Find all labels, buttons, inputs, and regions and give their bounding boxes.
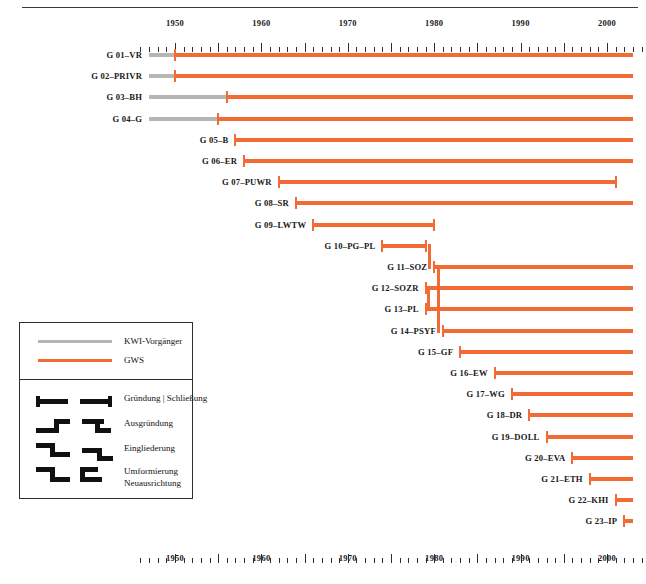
- axis-tick-1993: [547, 558, 548, 563]
- timeline-row: G 08–SR: [0, 195, 646, 211]
- row-label: G 13–PL: [384, 301, 418, 317]
- axis-label-2000: 2000: [598, 553, 616, 563]
- gruendung-cap: [511, 388, 513, 400]
- gruendung-cap: [243, 155, 245, 167]
- axis-label-1960: 1960: [252, 553, 270, 563]
- gruendung-cap: [174, 70, 176, 82]
- gws-segment: [443, 329, 633, 333]
- gws-segment: [512, 392, 633, 396]
- gruendung-cap: [589, 473, 591, 485]
- gws-segment: [244, 159, 633, 163]
- axis-tick-1965: [305, 554, 306, 563]
- timeline-row: G 12–SOZR: [0, 280, 646, 296]
- row-label: G 08–SR: [255, 195, 289, 211]
- gruendung-cap: [442, 325, 444, 337]
- legend-item-kwi: KWI-Vorgänger: [20, 332, 192, 351]
- axis-tick-1958: [244, 558, 245, 563]
- axis-tick-1996: [572, 558, 573, 563]
- timeline-row: G 10–PG–PL: [0, 238, 646, 254]
- row-label: G 16–EW: [450, 365, 487, 381]
- timeline-row: G 23–IP: [0, 513, 646, 529]
- row-label: G 21–ETH: [541, 471, 582, 487]
- gruendung-cap: [571, 452, 573, 464]
- axis-tick-1956: [227, 558, 228, 563]
- row-label: G 18–DR: [487, 407, 523, 423]
- gws-segment: [624, 519, 633, 523]
- axis-label-1990: 1990: [511, 553, 529, 563]
- legend-symbols: Gründung | Schließung Ausgründung: [20, 379, 192, 498]
- gws-segment: [426, 307, 633, 311]
- gruendung-cap: [494, 367, 496, 379]
- axis-tick-1955: [218, 554, 219, 563]
- gws-segment: [313, 223, 434, 227]
- axis-tick-1992: [538, 558, 539, 563]
- row-label: G 17–WG: [467, 386, 505, 402]
- gws-segment: [382, 244, 425, 248]
- timeline-row: G 04–G: [0, 111, 646, 127]
- row-label: G 04–G: [112, 111, 142, 127]
- axis-label-1970: 1970: [339, 553, 357, 563]
- branch-connector-g12-g13: [427, 286, 430, 311]
- gws-segment: [434, 265, 633, 269]
- row-label: G 05–B: [200, 132, 229, 148]
- legend-item-eingliederung: Eingliederung: [20, 439, 192, 464]
- axis-label-1950: 1950: [166, 553, 184, 563]
- schliessung-cap: [433, 219, 435, 231]
- schliessung-cap: [425, 240, 427, 252]
- axis-tick-1976: [400, 558, 401, 563]
- gruendung-cap: [381, 240, 383, 252]
- timeline-row: G 02–PRIVR: [0, 68, 646, 84]
- axis-tick-1963: [287, 558, 288, 563]
- axis-tick-1995: [564, 554, 565, 563]
- gws-segment: [218, 117, 633, 121]
- axis-tick-1948: [158, 558, 159, 563]
- axis-tick-1978: [417, 558, 418, 563]
- axis-tick-1946: [140, 558, 141, 563]
- axis-tick-2002: [624, 558, 625, 563]
- umformierung-line1: Umformierung: [124, 466, 178, 476]
- axis-tick-1964: [296, 558, 297, 563]
- axis-tick-1972: [365, 558, 366, 563]
- legend-label-ausgruendung: Ausgründung: [124, 414, 173, 433]
- gws-segment: [460, 350, 633, 354]
- gruendung-cap: [234, 134, 236, 146]
- row-label: G 10–PG–PL: [324, 238, 375, 254]
- gws-line-swatch: [38, 351, 112, 370]
- predecessor-segment: [149, 117, 218, 121]
- row-label: G 09–LWTW: [255, 217, 306, 233]
- gruendung-cap: [459, 346, 461, 358]
- gws-segment: [296, 201, 633, 205]
- legend-label-eingliederung: Eingliederung: [124, 439, 175, 458]
- row-label: G 23–IP: [586, 513, 618, 529]
- legend-label-umformierung: Umformierung Neuausrichtung: [124, 465, 181, 489]
- timeline-row: G 01–VR: [0, 47, 646, 63]
- axis-tick-1967: [322, 558, 323, 563]
- legend-item-gruendung-schliessung: Gründung | Schließung: [20, 389, 192, 414]
- axis-tick-1952: [192, 558, 193, 563]
- gws-segment: [279, 180, 616, 184]
- axis-label-1980: 1980: [425, 553, 443, 563]
- legend-label-gruendung-schliessung: Gründung | Schließung: [124, 389, 207, 408]
- gws-segment: [547, 435, 633, 439]
- row-label: G 20–EVA: [525, 450, 565, 466]
- kwi-line-swatch: [38, 332, 112, 351]
- timeline-row: G 03–BH: [0, 89, 646, 105]
- row-label: G 07–PUWR: [222, 174, 272, 190]
- axis-bottom: 195019601970198019902000: [0, 541, 646, 563]
- gruendung-cap: [278, 176, 280, 188]
- predecessor-segment: [149, 74, 175, 78]
- row-label: G 11–SOZ: [387, 259, 427, 275]
- axis-tick-1982: [451, 558, 452, 563]
- row-label: G 22–KHI: [569, 492, 609, 508]
- gws-segment: [590, 477, 633, 481]
- axis-tick-1962: [279, 558, 280, 563]
- axis-tick-1954: [210, 558, 211, 563]
- predecessor-segment: [149, 53, 175, 57]
- axis-tick-1983: [460, 558, 461, 563]
- timeline-chart: 195019601970198019902000 G 01–VRG 02–PRI…: [0, 0, 646, 584]
- gws-segment: [175, 53, 633, 57]
- row-label: G 19–DOLL: [492, 429, 540, 445]
- timeline-row: G 07–PUWR: [0, 174, 646, 190]
- ausgruendung-connector-g10-g11: [428, 244, 431, 269]
- row-label: G 02–PRIVR: [91, 68, 142, 84]
